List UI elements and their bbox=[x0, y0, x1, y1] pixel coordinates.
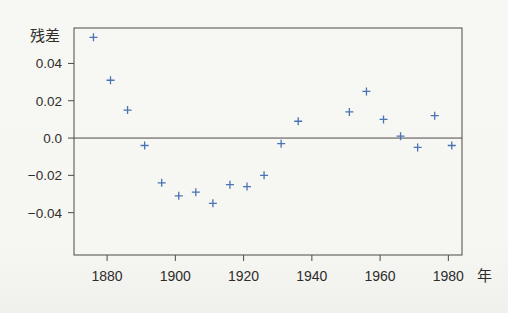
data-point-1961 bbox=[380, 115, 388, 123]
data-point-1951 bbox=[345, 108, 353, 116]
data-point-1966 bbox=[397, 132, 405, 140]
data-point-1886 bbox=[124, 106, 132, 114]
data-point-1916 bbox=[226, 181, 234, 189]
x-tick-label: 1940 bbox=[296, 268, 327, 284]
x-axis-ticks: 188019001920194019601980 bbox=[92, 255, 465, 284]
data-point-1876 bbox=[89, 33, 97, 41]
data-point-1901 bbox=[175, 192, 183, 200]
y-tick-label: 0.0 bbox=[43, 131, 62, 146]
data-point-1931 bbox=[277, 140, 285, 148]
data-point-1891 bbox=[141, 142, 149, 150]
y-tick-label: 0.04 bbox=[36, 56, 63, 71]
data-point-1896 bbox=[158, 179, 166, 187]
plot-frame bbox=[74, 28, 462, 255]
data-point-1906 bbox=[192, 188, 200, 196]
x-tick-label: 1920 bbox=[228, 268, 259, 284]
data-point-1976 bbox=[431, 112, 439, 120]
data-points bbox=[89, 33, 455, 207]
data-point-1956 bbox=[362, 87, 370, 95]
data-point-1911 bbox=[209, 199, 217, 207]
x-tick-label: 1960 bbox=[365, 268, 396, 284]
residual-scatter-chart: 188019001920194019601980 0.040.020.0−0.0… bbox=[0, 0, 508, 313]
x-tick-label: 1980 bbox=[433, 268, 464, 284]
y-tick-label: −0.04 bbox=[28, 206, 63, 221]
scanned-figure-page: 188019001920194019601980 0.040.020.0−0.0… bbox=[0, 0, 508, 313]
data-point-1921 bbox=[243, 183, 251, 191]
data-point-1881 bbox=[107, 76, 115, 84]
y-axis-title: 残差 bbox=[30, 27, 60, 44]
data-point-1926 bbox=[260, 171, 268, 179]
plot-box bbox=[74, 28, 462, 255]
y-axis-ticks: 0.040.020.0−0.02−0.04 bbox=[28, 56, 74, 220]
data-point-1936 bbox=[294, 117, 302, 125]
x-tick-label: 1880 bbox=[92, 268, 123, 284]
y-tick-label: 0.02 bbox=[36, 94, 62, 109]
y-tick-label: −0.02 bbox=[28, 168, 62, 183]
data-point-1971 bbox=[414, 143, 422, 151]
x-tick-label: 1900 bbox=[160, 268, 191, 284]
data-point-1981 bbox=[448, 142, 456, 150]
x-axis-title: 年 bbox=[477, 267, 492, 284]
